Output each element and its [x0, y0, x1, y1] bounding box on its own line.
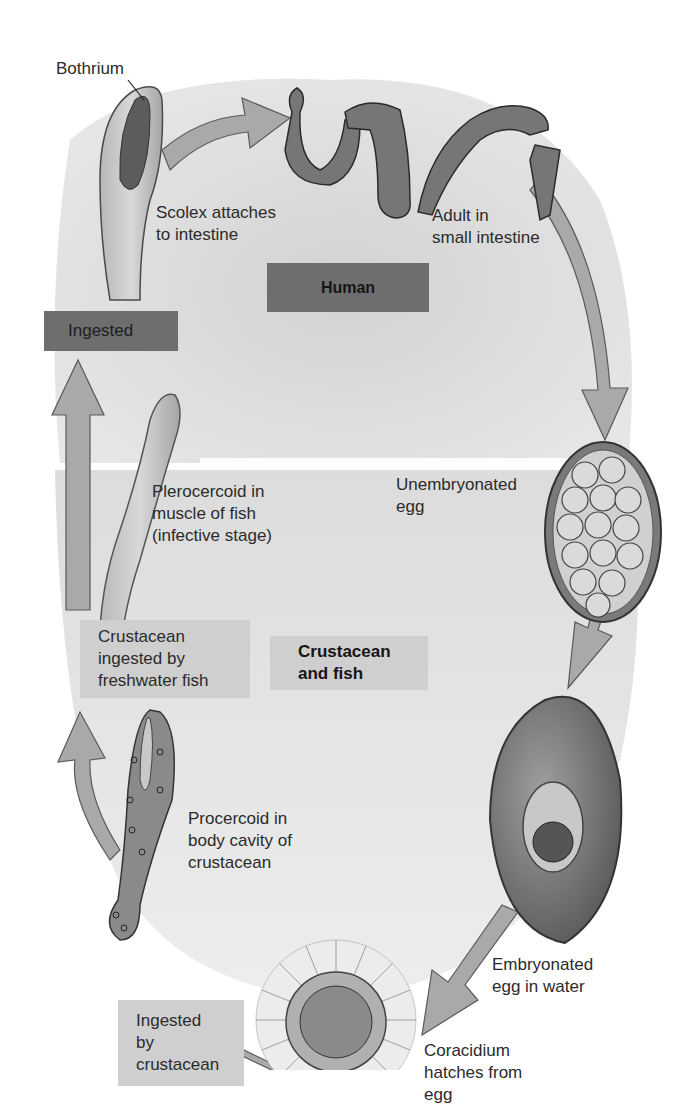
- label-coracidium: Coracidium hatches from egg: [424, 1040, 522, 1106]
- label-scolex: Scolex attaches to intestine: [156, 202, 276, 246]
- label-crustacean-ingested-box: Crustacean ingested by freshwater fish: [80, 620, 250, 698]
- label-embryonated-egg: Embryonated egg in water: [492, 954, 593, 998]
- label-adult: Adult in small intestine: [432, 205, 540, 249]
- label-unembryonated-egg: Unembryonated egg: [396, 474, 517, 518]
- label-procercoid: Procercoid in body cavity of crustacean: [188, 808, 292, 874]
- label-bothrium: Bothrium: [56, 58, 124, 80]
- label-ingested-by-crustacean-box: Ingested by crustacean: [118, 1000, 244, 1086]
- host-label-crustacean-fish: Crustacean and fish: [270, 636, 428, 690]
- label-ingested: Ingested: [44, 311, 178, 351]
- unembryonated-egg-illustration: [545, 442, 661, 622]
- host-label-human: Human: [267, 263, 429, 312]
- label-plerocercoid: Plerocercoid in muscle of fish (infectiv…: [152, 481, 272, 547]
